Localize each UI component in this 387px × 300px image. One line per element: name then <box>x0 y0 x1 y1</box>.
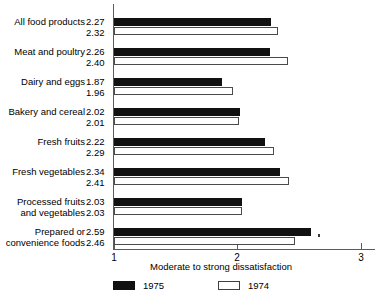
bar-1975-2 <box>114 78 222 86</box>
print-speck-artifact <box>318 234 320 237</box>
x-tick-label-1: 1 <box>111 252 117 263</box>
category-label: Fresh fruits <box>0 137 85 148</box>
value-label-1974: 2.46 <box>86 238 111 249</box>
category-label: Meat and poultry <box>0 47 85 58</box>
value-label-1974: 2.41 <box>86 178 111 189</box>
category-label: Processed fruits and vegetables <box>0 197 85 218</box>
x-axis-line <box>113 249 375 250</box>
category-value-pair: 2.592.46 <box>86 227 111 248</box>
legend-item-1974[interactable]: 1974 <box>218 279 269 292</box>
x-axis-title: Moderate to strong dissatisfaction <box>150 261 292 272</box>
bar-1975-1 <box>114 48 270 56</box>
legend-item-1975[interactable]: 1975 <box>113 279 164 292</box>
bar-1975-6 <box>114 198 242 206</box>
category-value-pair: 2.262.40 <box>86 47 111 68</box>
value-label-1975: 2.02 <box>86 107 111 118</box>
legend-label-1975: 1975 <box>143 281 164 291</box>
value-label-1974: 2.40 <box>86 58 111 69</box>
bar-1974-7 <box>114 237 295 245</box>
bar-1974-2 <box>114 87 233 95</box>
bar-1975-4 <box>114 138 265 146</box>
value-label-1975: 2.26 <box>86 47 111 58</box>
value-label-1974: 2.32 <box>86 28 111 39</box>
category-value-pair: 2.032.03 <box>86 197 111 218</box>
value-label-1975: 2.59 <box>86 227 111 238</box>
bar-1975-0 <box>114 18 271 26</box>
legend-swatch-1974 <box>218 281 240 290</box>
legend-swatch-1975 <box>113 281 135 290</box>
value-label-1974: 1.96 <box>86 88 111 99</box>
category-value-pair: 2.222.29 <box>86 137 111 158</box>
category-value-pair: 1.871.96 <box>86 77 111 98</box>
value-label-1974: 2.03 <box>86 208 111 219</box>
category-label: Dairy and eggs <box>0 77 85 88</box>
value-label-1975: 1.87 <box>86 77 111 88</box>
category-label: Bakery and cereal <box>0 107 85 118</box>
value-label-1975: 2.34 <box>86 167 111 178</box>
category-label: All food products <box>0 17 85 28</box>
category-value-pair: 2.272.32 <box>86 17 111 38</box>
value-label-1974: 2.01 <box>86 118 111 129</box>
value-label-1975: 2.03 <box>86 197 111 208</box>
bar-1974-3 <box>114 117 239 125</box>
x-tick-3 <box>361 243 362 250</box>
bar-1974-0 <box>114 27 278 35</box>
bar-1975-7 <box>114 228 311 236</box>
bar-1974-4 <box>114 147 274 155</box>
horizontal-bar-chart: All food products2.272.32Meat and poultr… <box>0 0 387 300</box>
x-tick-label-3: 3 <box>358 252 364 263</box>
value-label-1975: 2.22 <box>86 137 111 148</box>
value-label-1974: 2.29 <box>86 148 111 159</box>
bar-1975-5 <box>114 168 280 176</box>
bar-1974-5 <box>114 177 289 185</box>
category-value-pair: 2.342.41 <box>86 167 111 188</box>
category-value-pair: 2.022.01 <box>86 107 111 128</box>
legend-label-1974: 1974 <box>248 281 269 291</box>
bar-1974-6 <box>114 207 242 215</box>
bar-1974-1 <box>114 57 288 65</box>
category-label: Fresh vegetables <box>0 167 85 178</box>
category-label: Prepared or convenience foods <box>0 227 85 248</box>
bar-1975-3 <box>114 108 240 116</box>
plot-area: 123 <box>113 4 375 250</box>
value-label-1975: 2.27 <box>86 17 111 28</box>
